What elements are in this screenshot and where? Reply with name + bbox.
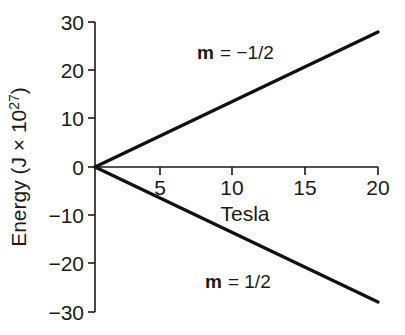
y-tick-label: −10 [48,204,84,227]
annotation-m-symbol: m [197,42,214,63]
y-axis-title: Energy (J × 1027) [6,87,30,247]
y-tick-label: 20 [61,59,84,82]
y-tick-label: −30 [48,301,84,324]
annotation-m-plus-half: m= 1/2 [205,271,271,292]
y-axis-title-prefix: Energy (J × 10 [7,110,30,247]
x-axis-title: Tesla [220,202,269,225]
annotation-m-value: = 1/2 [228,271,271,292]
svg-text:m= −1/2: m= −1/2 [197,42,274,63]
y-tick-label: 30 [61,11,84,34]
x-tick-label: 15 [293,176,316,199]
y-axis-title-suffix: ) [7,87,30,94]
y-axis-title-exponent: 27 [6,94,22,110]
x-tick-label: 10 [220,176,243,199]
annotation-m-value: = −1/2 [220,42,274,63]
chart-figure: 30 20 10 0 −10 −20 −30 5 10 15 20 Tesla … [0,0,405,335]
y-tick-label: 10 [61,107,84,130]
svg-text:Energy (J × 1027): Energy (J × 1027) [6,87,30,247]
zeeman-splitting-chart: 30 20 10 0 −10 −20 −30 5 10 15 20 Tesla … [0,0,405,335]
annotation-m-symbol: m [205,271,222,292]
x-tick-label: 20 [366,176,389,199]
annotation-m-minus-half: m= −1/2 [197,42,274,63]
y-tick-label: −20 [48,252,84,275]
svg-text:m= 1/2: m= 1/2 [205,271,271,292]
y-tick-label: 0 [72,156,84,179]
